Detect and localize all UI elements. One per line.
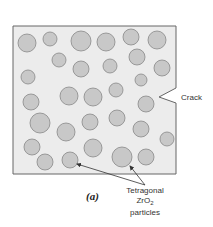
zro2-particle: [138, 96, 154, 112]
zro2-particle: [109, 110, 125, 126]
zro2-particle: [71, 31, 91, 51]
formula-subscript: 2: [150, 200, 153, 206]
zro2-particle: [43, 32, 57, 46]
zro2-particle: [138, 149, 154, 165]
crack-label: Crack: [181, 93, 202, 103]
zro2-particle: [52, 53, 66, 67]
zro2-particle: [37, 154, 53, 170]
zro2-particle: [112, 147, 132, 167]
zro2-particle: [103, 59, 117, 73]
zro2-particle: [62, 152, 78, 168]
zro2-particle: [97, 33, 115, 51]
zro2-particle: [135, 74, 147, 86]
figure-label: (a): [86, 190, 99, 202]
zro2-particle: [30, 113, 50, 133]
particle-label-line2: ZrO2: [120, 196, 170, 208]
particle-label: Tetragonal ZrO2 particles: [120, 186, 170, 218]
particle-label-line1: Tetragonal: [120, 186, 170, 196]
zro2-particle: [18, 34, 36, 52]
zirconia-toughening-diagram: [0, 0, 213, 227]
zro2-particle: [129, 49, 145, 65]
zro2-particle: [109, 83, 123, 97]
zro2-particle: [73, 61, 89, 77]
zro2-particle: [24, 139, 40, 155]
zro2-particle: [21, 70, 35, 84]
zro2-particle: [84, 139, 102, 157]
zro2-particle: [23, 94, 39, 110]
formula-main: ZrO: [136, 196, 150, 205]
zro2-particle: [84, 88, 102, 106]
zro2-particle: [60, 87, 78, 105]
zro2-particle: [123, 29, 139, 45]
particle-label-line3: particles: [120, 208, 170, 218]
zro2-particle: [154, 60, 170, 76]
zro2-particle: [160, 132, 174, 146]
zro2-particle: [133, 121, 149, 137]
zro2-particle: [57, 123, 75, 141]
zro2-particle: [148, 31, 166, 49]
zro2-particle: [82, 114, 98, 130]
